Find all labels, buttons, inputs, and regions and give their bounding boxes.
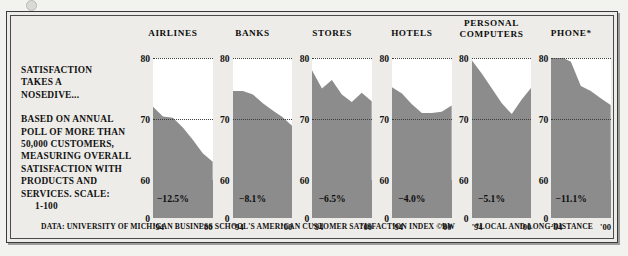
panel-title: PERSONALCOMPUTERS bbox=[452, 18, 532, 39]
gridline-70 bbox=[472, 119, 532, 120]
subtext-block: BASED ON ANNUAL POLL OF MORE THAN 50,000… bbox=[21, 113, 133, 212]
y-axis-tick-60: 60 bbox=[371, 175, 389, 186]
y-axis-tick-60: 60 bbox=[291, 175, 309, 186]
subtext-line-4: MEASURING OVERALL bbox=[21, 150, 133, 162]
area-fill-path bbox=[153, 107, 213, 180]
change-percent-label: −11.1% bbox=[531, 193, 611, 204]
headline-line-1: SATISFACTION bbox=[21, 64, 133, 76]
subtext-line-6: PRODUCTS AND bbox=[21, 175, 133, 187]
gridline-70 bbox=[233, 119, 293, 120]
subtext-line-3: 50,000 CUSTOMERS, bbox=[21, 138, 133, 150]
gridline-80 bbox=[392, 58, 452, 59]
subtext-line-5: SATISFACTION WITH bbox=[21, 163, 133, 175]
gridline-70 bbox=[551, 119, 611, 120]
panel-title: AIRLINES bbox=[133, 28, 213, 39]
chart-panel-airlines: AIRLINES−12.5%8070600'94'00 bbox=[133, 28, 213, 218]
gridline-80 bbox=[312, 58, 372, 59]
gridline-80 bbox=[472, 58, 532, 59]
panel-title: PHONE* bbox=[531, 28, 611, 39]
y-axis-tick-70: 70 bbox=[371, 114, 389, 125]
headline-line-3: NOSEDIVE... bbox=[21, 89, 133, 101]
headline-line-2: TAKES A bbox=[21, 76, 133, 88]
chart-panel-phone: PHONE*−11.1%8070600'94'00 bbox=[531, 28, 611, 218]
y-axis-tick-80: 80 bbox=[371, 53, 389, 64]
y-axis-tick-80: 80 bbox=[291, 53, 309, 64]
figure-footer: DATA: UNIVERSITY OF MICHIGAN BUSINESS SC… bbox=[7, 222, 617, 234]
panel-title: BANKS bbox=[213, 28, 293, 39]
change-percent-label: −4.0% bbox=[372, 193, 452, 204]
area-fill-path bbox=[472, 60, 532, 180]
area-fill-path bbox=[233, 91, 293, 180]
chart-panel-banks: BANKS−8.1%8070600'94'00 bbox=[213, 28, 293, 218]
panel-title: HOTELS bbox=[372, 28, 452, 39]
figure-frame: SATISFACTION TAKES A NOSEDIVE... BASED O… bbox=[6, 11, 618, 243]
y-axis-tick-60: 60 bbox=[132, 175, 150, 186]
y-axis-tick-70: 70 bbox=[530, 114, 548, 125]
chart-panel-personal-computers: PERSONALCOMPUTERS−5.1%8070600'94'00 bbox=[452, 28, 532, 218]
y-axis-tick-60: 60 bbox=[212, 175, 230, 186]
chart-panel-stores: STORES−6.5%8070600'94'00 bbox=[292, 28, 372, 218]
subtext-line-2: POLL OF MORE THAN bbox=[21, 126, 133, 138]
change-percent-label: −6.5% bbox=[292, 193, 372, 204]
chart-panels: AIRLINES−12.5%8070600'94'00BANKS−8.1%807… bbox=[133, 28, 611, 218]
plot-area bbox=[472, 58, 532, 180]
chart-panel-hotels: HOTELS−4.0%8070600'94'00 bbox=[372, 28, 452, 218]
subtext-line-7: SERVICES. SCALE: bbox=[21, 188, 133, 200]
panel-title: STORES bbox=[292, 28, 372, 39]
gridline-70 bbox=[312, 119, 372, 120]
caption-block: SATISFACTION TAKES A NOSEDIVE... BASED O… bbox=[21, 64, 133, 212]
gridline-70 bbox=[392, 119, 452, 120]
y-axis-tick-70: 70 bbox=[291, 114, 309, 125]
change-percent-label: −8.1% bbox=[213, 193, 293, 204]
y-axis-tick-80: 80 bbox=[132, 53, 150, 64]
plot-area bbox=[551, 58, 611, 180]
plot-area bbox=[153, 58, 213, 180]
gridline-80 bbox=[233, 58, 293, 59]
area-fill-path bbox=[312, 70, 372, 180]
gridline-80 bbox=[153, 58, 213, 59]
scan-artifact-dot bbox=[26, 0, 37, 11]
plot-area bbox=[233, 58, 293, 180]
panel-title-line-1: PERSONAL bbox=[452, 18, 532, 29]
area-fill-path bbox=[392, 87, 452, 180]
footer-note-text: *LOCAL AND LONG-DISTANCE bbox=[476, 222, 593, 231]
y-axis-tick-70: 70 bbox=[132, 114, 150, 125]
chart-screenshot: SATISFACTION TAKES A NOSEDIVE... BASED O… bbox=[0, 0, 628, 256]
change-percent-label: −12.5% bbox=[133, 193, 213, 204]
change-percent-label: −5.1% bbox=[452, 193, 532, 204]
panel-title-line-2: COMPUTERS bbox=[452, 29, 532, 40]
gridline-80 bbox=[551, 58, 611, 59]
footer-source-text: DATA: UNIVERSITY OF MICHIGAN BUSINESS SC… bbox=[41, 222, 455, 231]
plot-area bbox=[392, 58, 452, 180]
y-axis-tick-60: 60 bbox=[451, 175, 469, 186]
subtext-line-1: BASED ON ANNUAL bbox=[21, 113, 133, 125]
y-axis-tick-60: 60 bbox=[530, 175, 548, 186]
y-axis-tick-70: 70 bbox=[212, 114, 230, 125]
y-axis-tick-80: 80 bbox=[212, 53, 230, 64]
y-axis-tick-70: 70 bbox=[451, 114, 469, 125]
plot-area bbox=[312, 58, 372, 180]
gridline-70 bbox=[153, 119, 213, 120]
y-axis-tick-80: 80 bbox=[451, 53, 469, 64]
subtext-line-8: 1-100 bbox=[21, 200, 133, 212]
y-axis-tick-80: 80 bbox=[530, 53, 548, 64]
